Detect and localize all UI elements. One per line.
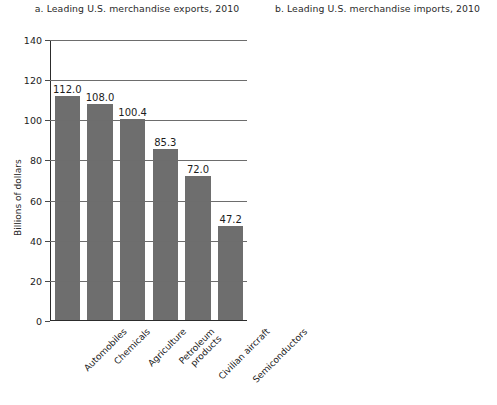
bar-value-label: 85.3	[154, 137, 176, 148]
chart-a-bar-slot: 112.0	[51, 40, 84, 320]
chart-a-gridline	[50, 40, 247, 41]
chart-a-x-label-slot: Agriculture	[116, 321, 149, 405]
chart-a-y-tick	[45, 241, 50, 242]
chart-a-gridline	[50, 120, 247, 121]
chart-a-y-tick-label: 40	[30, 235, 42, 246]
chart-a-y-tick	[45, 120, 50, 121]
chart-a-x-tick-labels: AutomobilesChemicalsAgriculturePetroleum…	[51, 321, 247, 405]
chart-a-y-tick	[45, 80, 50, 81]
chart-a-y-tick	[45, 40, 50, 41]
chart-a-bar-group: 112.0108.0100.485.372.047.2	[51, 40, 247, 320]
chart-a-y-tick-label: 140	[24, 35, 42, 46]
chart-a-y-tick	[45, 201, 50, 202]
chart-a-y-tick-label: 120	[24, 75, 42, 86]
bar-value-label: 47.2	[220, 214, 242, 225]
chart-a-gridline	[50, 160, 247, 161]
chart-a-x-label-slot: Semiconductors	[214, 321, 247, 405]
chart-a-gridline	[50, 241, 247, 242]
chart-a-plot-area: 112.0108.0100.485.372.047.2 AutomobilesC…	[50, 40, 247, 321]
figure: a. Leading U.S. merchandise exports, 201…	[0, 0, 497, 405]
bar-value-label: 108.0	[86, 92, 115, 103]
chart-a-gridline	[50, 201, 247, 202]
chart-panel-a: a. Leading U.S. merchandise exports, 201…	[0, 0, 252, 405]
chart-a-bar-slot: 100.4	[116, 40, 149, 320]
chart-a-gridline	[50, 281, 247, 282]
chart-a-y-tick-label: 60	[30, 195, 42, 206]
chart-a-y-tick	[45, 321, 50, 322]
chart-a-y-axis-label: Billions of dollars	[13, 159, 23, 236]
chart-a-bar-slot: 108.0	[84, 40, 117, 320]
chart-a-y-tick-label: 0	[36, 316, 42, 327]
bar-automobiles[interactable]: 112.0	[55, 96, 80, 320]
bar-value-label: 100.4	[118, 107, 147, 118]
chart-a-y-tick-label: 80	[30, 155, 42, 166]
bar-civilian-aircraft[interactable]: 72.0	[185, 176, 210, 320]
chart-a-bar-slot: 85.3	[149, 40, 182, 320]
chart-a-bar-slot: 47.2	[214, 40, 247, 320]
chart-a-x-label-slot: Automobiles	[51, 321, 84, 405]
chart-a-y-tick	[45, 160, 50, 161]
bar-petroleum-products[interactable]: 85.3	[153, 149, 178, 320]
chart-a-gridline	[50, 80, 247, 81]
chart-a-bar-slot: 72.0	[182, 40, 215, 320]
bar-value-label: 112.0	[53, 84, 82, 95]
chart-panel-b: b. Leading U.S. merchandise imports, 201…	[252, 0, 497, 405]
bar-chemicals[interactable]: 108.0	[87, 104, 112, 320]
chart-a-x-label-slot: Petroleumproducts	[149, 321, 182, 405]
chart-a-y-tick	[45, 281, 50, 282]
bar-value-label: 72.0	[187, 164, 209, 175]
chart-b-title: b. Leading U.S. merchandise imports, 201…	[252, 3, 497, 14]
chart-a-x-label-slot: Civilian aircraft	[182, 321, 215, 405]
bar-agriculture[interactable]: 100.4	[120, 119, 145, 320]
chart-a-x-label-slot: Chemicals	[84, 321, 117, 405]
chart-a-title: a. Leading U.S. merchandise exports, 201…	[0, 3, 252, 14]
chart-a-y-tick-label: 100	[24, 115, 42, 126]
chart-a-y-tick-label: 20	[30, 275, 42, 286]
